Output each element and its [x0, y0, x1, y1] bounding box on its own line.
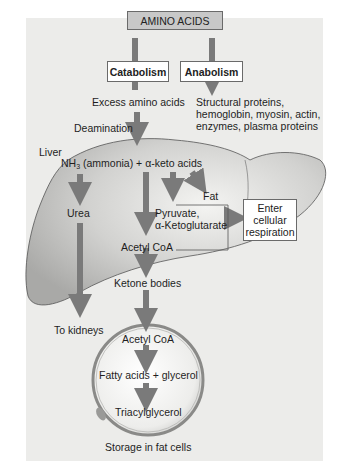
urea-label: Urea	[67, 207, 90, 219]
anabolism-products-2: hemoglobin, myosin, actin,	[196, 108, 320, 120]
storage-caption: Storage in fat cells	[105, 441, 191, 453]
fat-cell-acetyl-coa: Acetyl CoA	[122, 333, 174, 345]
fat-label: Fat	[203, 190, 218, 202]
excess-amino-acids: Excess amino acids	[92, 96, 185, 108]
diagram-graphics	[0, 0, 351, 476]
anabolism-products-3: enzymes, plasma proteins	[196, 120, 318, 132]
deamination-label: Deamination	[74, 122, 133, 134]
acetyl-coa-label: Acetyl CoA	[121, 241, 173, 253]
liver-label: Liver	[39, 146, 62, 158]
catabolism-label: Catabolism	[110, 66, 167, 78]
to-kidneys-label: To kidneys	[54, 324, 104, 336]
amino-acids-box: AMINO ACIDS	[127, 11, 223, 30]
fatty-acids-label: Fatty acids + glycerol	[99, 369, 198, 381]
anabolism-box: Anabolism	[180, 61, 243, 82]
triacylglycerol-label: Triacylglycerol	[115, 406, 182, 418]
ammonia-keto-acids: NH3 (ammonia) + α-keto acids	[61, 157, 202, 173]
anabolism-products-1: Structural proteins,	[196, 96, 284, 108]
ketone-bodies-label: Ketone bodies	[114, 277, 181, 289]
cellular-respiration-box: Enter cellular respiration	[243, 199, 297, 241]
anabolism-label: Anabolism	[185, 66, 239, 78]
ketoglutarate-label: α-Ketoglutarate	[155, 219, 227, 231]
catabolism-box: Catabolism	[107, 61, 169, 82]
amino-acids-label: AMINO ACIDS	[141, 15, 210, 27]
pyruvate-label: Pyruvate,	[155, 207, 199, 219]
